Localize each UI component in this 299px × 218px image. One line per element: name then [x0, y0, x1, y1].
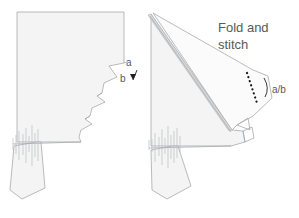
left-label-b: b [120, 73, 126, 84]
right-instruction-line2: stitch [218, 37, 248, 52]
pattern-diagram-svg: a b Fold and stitch a/b [0, 0, 299, 218]
right-instruction-line1: Fold and [218, 20, 269, 35]
left-label-a: a [126, 57, 132, 68]
right-label-ab: a/b [272, 84, 286, 95]
left-panel-group: a b [10, 12, 137, 199]
diagram-root: a b Fold and stitch a/b [0, 0, 299, 218]
left-bottom-tail-shape [10, 142, 45, 199]
left-arrow-head-icon [130, 74, 136, 80]
left-main-panel-shape [17, 12, 124, 142]
right-panel-group: Fold and stitch a/b [148, 13, 286, 199]
